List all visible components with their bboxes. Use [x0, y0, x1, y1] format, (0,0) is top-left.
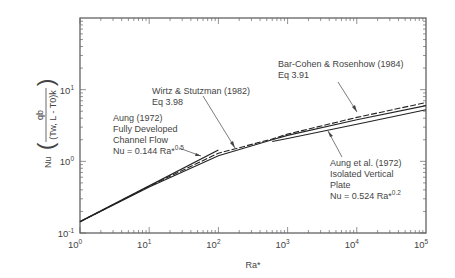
x-axis-tick-labels: 100101102103104105 [68, 238, 429, 250]
svg-text:100: 100 [68, 238, 83, 250]
x-axis-label: Ra* [245, 260, 261, 270]
svg-text:qb: qb [35, 110, 45, 120]
svg-text:Channel Flow: Channel Flow [113, 135, 169, 145]
svg-text:Eq 3.91: Eq 3.91 [278, 70, 309, 80]
y-axis-label: Nu ( qb (Tw, L - T0)k ) [33, 79, 58, 168]
svg-text:Nu: Nu [43, 156, 53, 168]
svg-text:Isolated Vertical: Isolated Vertical [330, 169, 394, 179]
svg-text:101: 101 [60, 84, 75, 96]
svg-text:Wirtz & Stutzman (1982): Wirtz & Stutzman (1982) [152, 86, 250, 96]
svg-text:Aung et al. (1972): Aung et al. (1972) [330, 158, 402, 168]
svg-text:102: 102 [206, 238, 221, 250]
annotation-bar-cohen: Bar-Cohen & Rosenhow (1984) Eq 3.91 [278, 59, 404, 112]
annotation-aung-plate: Aung et al. (1972) Isolated Vertical Pla… [328, 131, 402, 201]
svg-text:Nu = 0.144 Ra*0.5: Nu = 0.144 Ra*0.5 [113, 144, 184, 156]
svg-text:Fully Developed: Fully Developed [113, 124, 178, 134]
svg-text:101: 101 [137, 238, 152, 250]
svg-text:Nu = 0.524 Ra*0.2: Nu = 0.524 Ra*0.2 [330, 189, 401, 201]
svg-text:10-1: 10-1 [58, 227, 75, 239]
svg-text:105: 105 [414, 238, 429, 250]
svg-text:(Tw, L - T0)k: (Tw, L - T0)k [48, 90, 58, 140]
svg-text:104: 104 [345, 238, 360, 250]
y-axis-tick-labels: 10-1100101 [58, 84, 75, 239]
svg-text:103: 103 [275, 238, 290, 250]
svg-text:Aung (1972): Aung (1972) [113, 113, 163, 123]
svg-text:Plate: Plate [330, 180, 351, 190]
chart: 100101102103104105 10-1100101 Ra* Nu ( q… [0, 0, 455, 278]
svg-text:100: 100 [60, 155, 75, 167]
svg-text:): ) [33, 79, 58, 86]
svg-text:Bar-Cohen & Rosenhow (1984): Bar-Cohen & Rosenhow (1984) [278, 59, 404, 69]
annotation-aung-channel: Aung (1972) Fully Developed Channel Flow… [113, 113, 201, 156]
svg-text:Eq 3.98: Eq 3.98 [152, 97, 183, 107]
svg-text:(: ( [33, 142, 58, 150]
